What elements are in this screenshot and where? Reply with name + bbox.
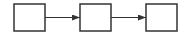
- box-2: [80, 4, 111, 31]
- box-3: [146, 4, 177, 31]
- flow-diagram: [0, 0, 186, 35]
- box-1: [14, 4, 45, 31]
